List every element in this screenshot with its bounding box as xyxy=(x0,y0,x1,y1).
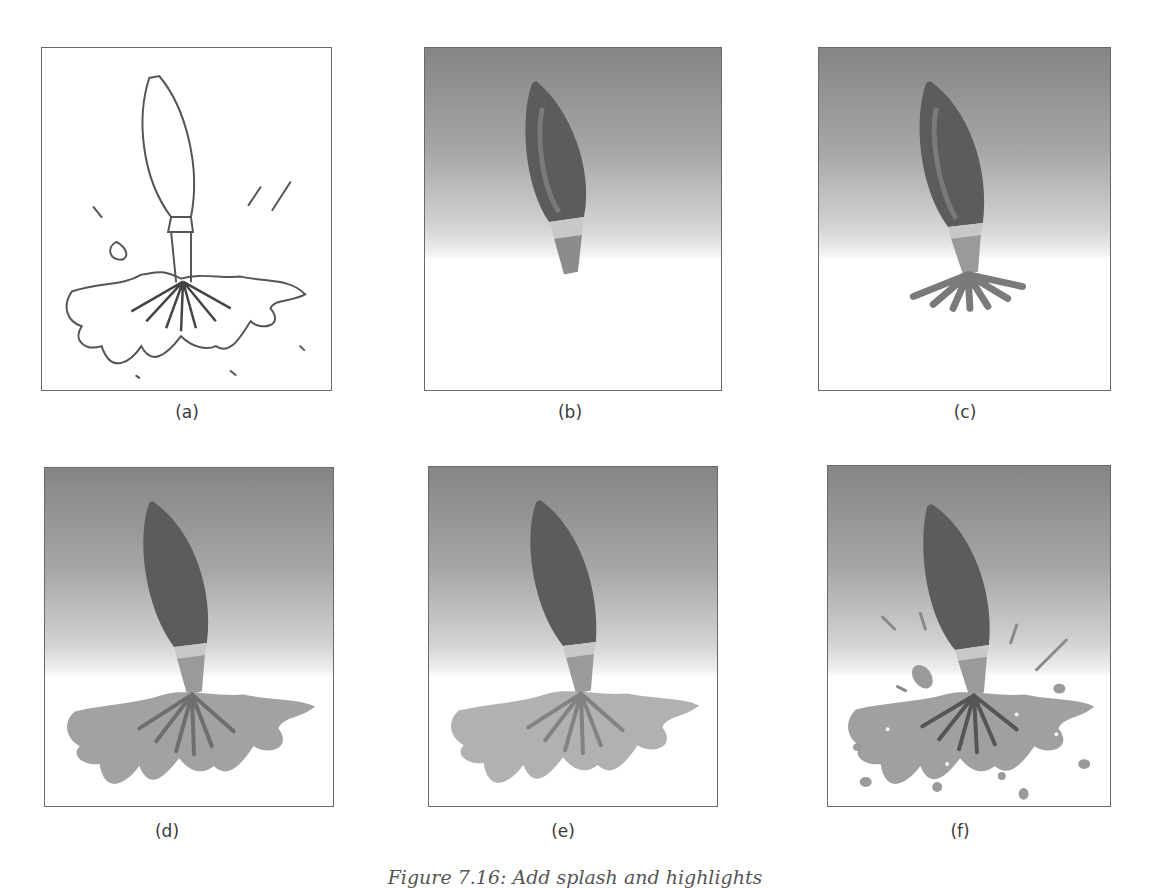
figure-caption: Figure 7.16: Add splash and highlights xyxy=(0,866,1150,888)
brush-bristles-illustration xyxy=(819,48,1110,390)
brush-droplets-illustration xyxy=(828,466,1110,806)
panel-d-label: (d) xyxy=(137,821,197,841)
panel-a-label: (a) xyxy=(157,402,217,422)
panel-d-splash xyxy=(44,467,334,807)
brush-illustration xyxy=(425,48,721,390)
panel-c-brush-bristles xyxy=(818,47,1111,391)
panel-f-label: (f) xyxy=(930,821,990,841)
panel-b-brush xyxy=(424,47,722,391)
panel-e-label: (e) xyxy=(533,821,593,841)
brush-sketch-illustration xyxy=(42,48,331,390)
panel-b-label: (b) xyxy=(540,402,600,422)
brush-softened-illustration xyxy=(429,467,717,806)
brush-splash-illustration xyxy=(45,468,333,806)
panel-c-label: (c) xyxy=(935,402,995,422)
panel-f-droplets-highlights xyxy=(827,465,1111,807)
panel-a-sketch xyxy=(41,47,332,391)
panel-e-softened xyxy=(428,466,718,807)
